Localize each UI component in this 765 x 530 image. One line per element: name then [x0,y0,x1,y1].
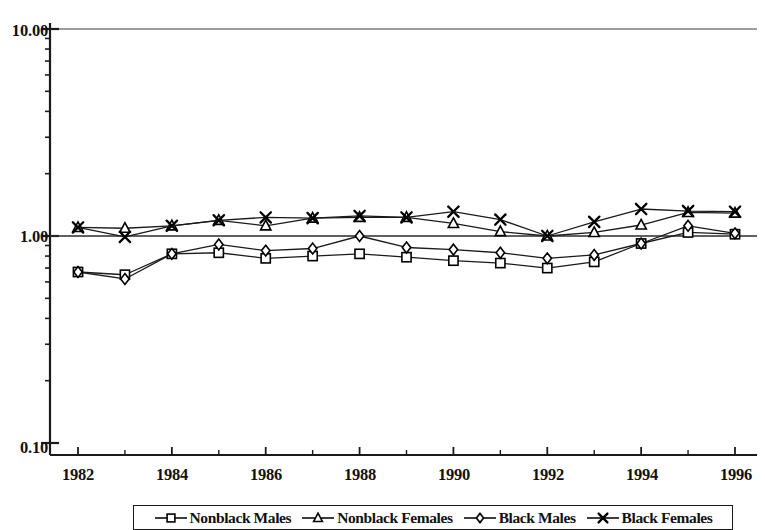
x-axis-label-1986: 1986 [236,465,296,485]
legend-marker-diamond [463,510,497,526]
legend-marker-square [154,510,188,526]
legend-label-black-females: Black Females [620,509,713,527]
legend-label-black-males: Black Males [497,509,576,527]
y-axis-label-middle: 1.00 [0,227,48,247]
legend-item-black-females: Black Females [581,509,718,527]
legend-label-nonblack-females: Nonblack Females [335,509,452,527]
legend-marker-triangle [301,510,335,526]
x-axis-label-1996: 1996 [706,465,765,485]
legend-item-nonblack-females: Nonblack Females [296,509,457,527]
legend-item-black-males: Black Males [458,509,581,527]
x-axis-label-1988: 1988 [330,465,390,485]
legend-marker-cross [586,510,620,526]
x-axis-label-1990: 1990 [424,465,484,485]
chart-legend: Nonblack Males Nonblack Females Black Ma… [133,505,733,530]
legend-item-nonblack-males: Nonblack Males [149,509,297,527]
x-axis-label-1984: 1984 [142,465,202,485]
y-axis-label-top: 10.00 [0,21,48,41]
x-axis-label-1982: 1982 [48,465,108,485]
chart-container: 10.00 1.00 0.10 1982 1984 1986 1988 1990… [0,0,765,530]
x-axis-label-1992: 1992 [518,465,578,485]
x-axis-label-1994: 1994 [612,465,672,485]
legend-label-nonblack-males: Nonblack Males [188,509,292,527]
chart-plot-area [0,0,765,530]
y-axis-label-bottom: 0.10 [0,438,48,458]
